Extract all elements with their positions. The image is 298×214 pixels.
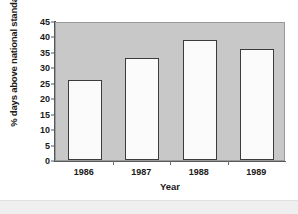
bar (68, 80, 102, 160)
plot-area (55, 22, 285, 161)
lower-blank-panel (0, 200, 298, 214)
y-axis-tick-mark (51, 68, 55, 69)
y-axis-tick-mark (51, 130, 55, 131)
y-axis-tick-labels: 454035302520151050 (28, 16, 50, 162)
y-axis-tick-mark (51, 145, 55, 146)
y-axis-tick-label: 40 (28, 33, 50, 42)
bar-chart-panel: % days above national standard 454035302… (0, 0, 298, 190)
x-axis-tick-label: 1988 (171, 167, 227, 177)
x-axis-tick-mark (228, 161, 229, 165)
bar (125, 58, 159, 160)
x-axis-tick-mark (113, 161, 114, 165)
y-axis-tick-mark (51, 161, 55, 162)
y-axis-tick-mark (51, 99, 55, 100)
y-axis-tick-label: 35 (28, 48, 50, 57)
y-axis-tick-label: 20 (28, 95, 50, 104)
y-axis-tick-label: 30 (28, 64, 50, 73)
x-axis-title: Year (55, 181, 285, 192)
x-axis-tick-label: 1989 (228, 167, 284, 177)
y-axis-tick-label: 10 (28, 126, 50, 135)
y-axis-tick-label: 0 (28, 157, 50, 166)
y-axis-title: % days above national standard (8, 0, 19, 133)
bar (240, 49, 274, 160)
x-axis-tick-mark (170, 161, 171, 165)
y-axis-tick-mark (51, 22, 55, 23)
x-axis-tick-label: 1987 (113, 167, 169, 177)
y-axis-tick-mark (51, 37, 55, 38)
x-axis-tick-label: 1986 (56, 167, 112, 177)
y-axis-tick-label: 15 (28, 110, 50, 119)
figure: % days above national standard 454035302… (0, 0, 298, 214)
y-axis-tick-label: 25 (28, 79, 50, 88)
y-axis-tick-label: 45 (28, 18, 50, 27)
y-axis-tick-mark (51, 52, 55, 53)
y-axis-tick-label: 5 (28, 141, 50, 150)
y-axis-tick-mark (51, 114, 55, 115)
bar (183, 40, 217, 160)
y-axis-tick-mark (51, 83, 55, 84)
